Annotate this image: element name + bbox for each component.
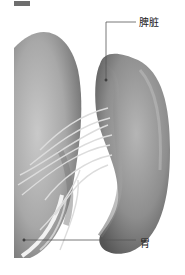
spleen-shape	[95, 54, 170, 254]
organ-illustration	[0, 0, 185, 275]
anatomy-diagram: 脾脏 胃	[0, 0, 185, 275]
stomach-shape	[14, 32, 81, 258]
label-spleen: 脾脏	[139, 14, 159, 29]
label-stomach: 胃	[140, 235, 150, 250]
